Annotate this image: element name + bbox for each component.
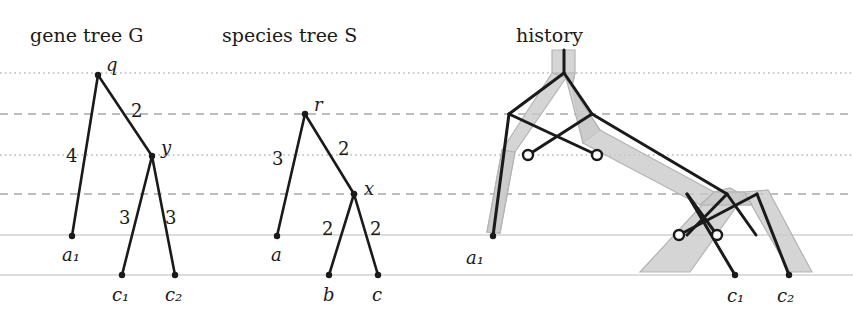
gene-leaf-c2 (172, 272, 178, 278)
history-leaf-dot-c1 (732, 272, 738, 278)
species-leaf-label-a: a (271, 244, 282, 265)
panel-title-species-tree: species tree S (222, 24, 357, 46)
gene-leaf-label-c1: c₁ (112, 284, 129, 305)
phylogeny-figure: gene tree G species tree S history q y a… (0, 0, 853, 321)
transfer-endpoint-3 (674, 230, 684, 240)
gene-edge-label-y-c2: 3 (165, 207, 176, 228)
gene-node-q (95, 72, 101, 78)
transfer-endpoint-4 (712, 230, 722, 240)
gene-node-y (149, 153, 155, 159)
species-edge-label-r-x: 2 (338, 138, 349, 159)
gene-edge-label-q-y: 2 (131, 100, 142, 121)
species-leaf-b (326, 272, 332, 278)
species-edge-label-x-b: 2 (322, 218, 333, 239)
history-leaf-dot-c2 (786, 272, 792, 278)
history-leaf-label-a1: a₁ (466, 247, 484, 268)
gene-leaf-a1 (69, 233, 75, 239)
history-leaf-dot-a1 (490, 233, 496, 239)
gene-node-label-y: y (160, 137, 172, 158)
species-leaf-c (375, 272, 381, 278)
gene-leaf-c1 (119, 272, 125, 278)
species-node-label-x: x (364, 178, 374, 199)
panel-title-gene-tree: gene tree G (30, 24, 143, 46)
gene-leaf-label-c2: c₂ (165, 284, 182, 305)
transfer-endpoint-1 (523, 150, 533, 160)
transfer-endpoint-2 (592, 150, 602, 160)
species-node-r (302, 111, 308, 117)
species-node-label-r: r (314, 94, 324, 115)
panel-title-history: history (516, 24, 583, 46)
species-edge-label-x-c: 2 (370, 218, 381, 239)
gene-edge-label-y-c1: 3 (119, 207, 130, 228)
species-leaf-label-b: b (323, 284, 335, 305)
gene-leaf-label-a1: a₁ (62, 244, 80, 265)
species-leaf-label-c: c (372, 284, 382, 305)
gene-node-label-q: q (106, 54, 118, 75)
figure-background (0, 0, 853, 321)
history-leaf-label-c2: c₂ (777, 285, 794, 306)
species-edge-label-r-a: 3 (272, 148, 283, 169)
history-leaf-label-c1: c₁ (727, 285, 744, 306)
species-node-x (351, 191, 357, 197)
species-leaf-a (274, 233, 280, 239)
gene-edge-label-q-a1: 4 (66, 145, 77, 166)
